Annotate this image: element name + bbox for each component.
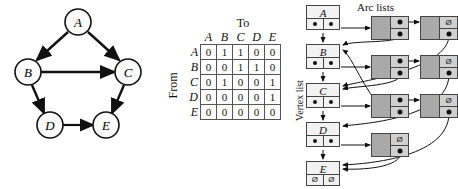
arc-next-cell[interactable] bbox=[391, 17, 408, 29]
arc-node-cells bbox=[391, 95, 408, 117]
arc-node-a-2[interactable]: Ø bbox=[420, 16, 458, 40]
arc-null-glyph: Ø bbox=[446, 96, 452, 105]
vertex-arc-cell[interactable] bbox=[323, 58, 341, 69]
vertex-arc-null: Ø bbox=[307, 175, 323, 184]
matrix-cell[interactable]: 0 bbox=[233, 105, 249, 120]
arc-next-cell[interactable]: Ø bbox=[440, 17, 457, 29]
graph-vertex-label-d: D bbox=[44, 118, 55, 133]
matrix-cell[interactable]: 0 bbox=[201, 105, 217, 120]
matrix-cell[interactable]: 0 bbox=[233, 90, 249, 105]
arc-node-cells bbox=[391, 17, 408, 39]
matrix-cell[interactable]: 0 bbox=[249, 90, 265, 105]
arc-next-cell[interactable]: Ø bbox=[440, 56, 457, 68]
matrix-cell[interactable]: 0 bbox=[201, 60, 217, 75]
arc-node-b-2[interactable]: Ø bbox=[420, 55, 458, 79]
matrix-cell[interactable]: 0 bbox=[265, 45, 281, 60]
arc-target-cell[interactable] bbox=[391, 146, 408, 157]
edge-c-e bbox=[112, 85, 124, 113]
matrix-to-label: To bbox=[223, 16, 263, 31]
vertex-arc-cell[interactable]: Ø bbox=[323, 175, 341, 186]
arc-next-dot bbox=[397, 20, 402, 25]
matrix-cell[interactable]: 0 bbox=[217, 90, 233, 105]
arc-target-dot bbox=[446, 70, 451, 75]
vertex-node-a[interactable]: A bbox=[306, 5, 340, 30]
arc-target-cell[interactable] bbox=[391, 107, 408, 118]
matrix-row-header: C bbox=[184, 75, 201, 90]
vertex-node-label: D bbox=[306, 122, 340, 136]
matrix-cell[interactable]: 0 bbox=[217, 105, 233, 120]
vertex-node-d[interactable]: D bbox=[306, 122, 340, 147]
arc-next-cell[interactable] bbox=[391, 56, 408, 68]
matrix-header-row: ABCDE bbox=[184, 30, 281, 45]
vertex-arc-cell[interactable] bbox=[323, 19, 341, 30]
matrix-col-header: D bbox=[249, 30, 265, 45]
vertex-arc-pointer-dot bbox=[313, 100, 317, 104]
arc-node-c-2[interactable]: Ø bbox=[420, 94, 458, 118]
matrix-cell[interactable]: 1 bbox=[265, 90, 281, 105]
vertex-next-cell[interactable] bbox=[306, 58, 323, 69]
matrix-row-header: A bbox=[184, 45, 201, 60]
matrix-row: E00000 bbox=[184, 105, 281, 120]
vertex-next-cell[interactable] bbox=[306, 19, 323, 30]
matrix-cell[interactable]: 0 bbox=[217, 60, 233, 75]
vertex-arc-pointer-dot bbox=[313, 22, 317, 26]
arc-node-c-1[interactable] bbox=[371, 94, 409, 118]
matrix-row: D00001 bbox=[184, 90, 281, 105]
vertex-next-pointer-dot bbox=[329, 139, 333, 143]
vertex-node-pointers bbox=[306, 58, 340, 69]
arc-node-cells: Ø bbox=[440, 56, 457, 78]
digraph-svg: A B C D E bbox=[0, 0, 160, 189]
matrix-cell[interactable]: 0 bbox=[265, 60, 281, 75]
vertex-arc-pointer-dot bbox=[313, 61, 317, 65]
arc-target-cell[interactable] bbox=[440, 107, 457, 118]
vertex-node-pointers bbox=[306, 97, 340, 108]
matrix-cell[interactable]: 1 bbox=[217, 45, 233, 60]
vertex-node-e[interactable]: EØØ bbox=[306, 161, 340, 186]
matrix-row: B00110 bbox=[184, 60, 281, 75]
arc-target-cell[interactable] bbox=[391, 29, 408, 40]
matrix-cell[interactable]: 1 bbox=[217, 75, 233, 90]
arc-node-body bbox=[372, 134, 391, 156]
matrix-cell[interactable]: 1 bbox=[233, 45, 249, 60]
matrix-from-label: From bbox=[166, 66, 181, 106]
vertex-node-b[interactable]: B bbox=[306, 44, 340, 69]
edge-a-b bbox=[37, 32, 68, 60]
arc-target-cell[interactable] bbox=[391, 68, 408, 79]
matrix-corner bbox=[184, 30, 201, 45]
arc-next-cell[interactable]: Ø bbox=[391, 134, 408, 146]
matrix-cell[interactable]: 1 bbox=[233, 60, 249, 75]
vertex-next-cell[interactable] bbox=[306, 97, 323, 108]
arc-next-cell[interactable]: Ø bbox=[440, 95, 457, 107]
arc-node-a-1[interactable] bbox=[371, 16, 409, 40]
vertex-node-c[interactable]: C bbox=[306, 83, 340, 108]
matrix-cell[interactable]: 0 bbox=[249, 45, 265, 60]
arc-target-dot bbox=[397, 31, 402, 36]
matrix-cell[interactable]: 0 bbox=[249, 75, 265, 90]
arc-target-dot bbox=[397, 70, 402, 75]
matrix-cell[interactable]: 1 bbox=[249, 60, 265, 75]
vertex-arc-cell[interactable] bbox=[323, 97, 341, 108]
vertex-next-cell[interactable]: Ø bbox=[306, 175, 323, 186]
matrix-cell[interactable]: 0 bbox=[233, 75, 249, 90]
matrix-cell[interactable]: 0 bbox=[249, 105, 265, 120]
matrix-col-header: C bbox=[233, 30, 249, 45]
arc-node-d-1[interactable]: Ø bbox=[371, 133, 409, 157]
arc-target-cell[interactable] bbox=[440, 29, 457, 40]
arc-next-cell[interactable] bbox=[391, 95, 408, 107]
arc-node-body bbox=[421, 56, 440, 78]
matrix-cell[interactable]: 0 bbox=[201, 90, 217, 105]
matrix-row: A01100 bbox=[184, 45, 281, 60]
vertex-arc-cell[interactable] bbox=[323, 136, 341, 147]
matrix-cell[interactable]: 0 bbox=[201, 45, 217, 60]
edge-b-d bbox=[32, 85, 44, 113]
matrix-cell[interactable]: 0 bbox=[265, 105, 281, 120]
vertex-next-cell[interactable] bbox=[306, 136, 323, 147]
matrix-col-header: B bbox=[217, 30, 233, 45]
vertex-arc-pointer-dot bbox=[313, 139, 317, 143]
matrix-cell[interactable]: 1 bbox=[265, 75, 281, 90]
arc-node-cells bbox=[391, 56, 408, 78]
arc-node-b-1[interactable] bbox=[371, 55, 409, 79]
matrix-cell[interactable]: 0 bbox=[201, 75, 217, 90]
arc-target-cell[interactable] bbox=[440, 68, 457, 79]
graph-vertex-label-b: B bbox=[24, 65, 32, 80]
